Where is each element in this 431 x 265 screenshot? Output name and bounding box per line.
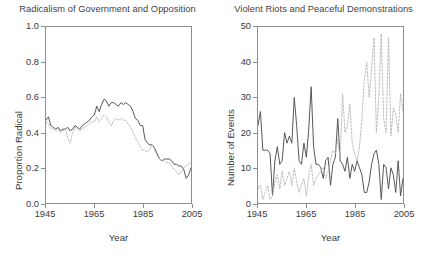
y-tick-mark: [253, 26, 257, 27]
y-tick-label: 30: [216, 92, 251, 102]
y-tick-label: 0.0: [0, 199, 39, 209]
y-tick-mark: [253, 62, 257, 63]
series-line: [258, 34, 403, 199]
y-tick-mark: [41, 26, 45, 27]
y-tick-label: 1.0: [0, 21, 39, 31]
plot-lines-right: [258, 27, 403, 203]
x-tick-label: 1945: [35, 209, 56, 219]
series-line: [46, 115, 191, 175]
x-tick-label: 2005: [182, 209, 203, 219]
y-tick-mark: [41, 97, 45, 98]
x-tick-mark: [94, 204, 95, 208]
x-tick-mark: [404, 204, 405, 208]
plot-lines-left: [46, 27, 191, 203]
x-tick-mark: [257, 204, 258, 208]
plot-area-left: [45, 26, 192, 204]
y-tick-label: 50: [216, 21, 251, 31]
x-tick-label: 1985: [133, 209, 154, 219]
x-tick-mark: [355, 204, 356, 208]
y-tick-mark: [41, 133, 45, 134]
panel-title-left: Radicalism of Government and Opposition: [0, 4, 215, 14]
y-tick-mark: [253, 97, 257, 98]
x-tick-mark: [306, 204, 307, 208]
series-line: [258, 87, 403, 200]
panel-title-right: Violent Riots and Peaceful Demonstration…: [216, 4, 431, 14]
x-tick-label: 1985: [345, 209, 366, 219]
x-tick-label: 1965: [296, 209, 317, 219]
x-tick-mark: [45, 204, 46, 208]
y-axis-title-left: Proportion Radical: [13, 111, 24, 190]
x-tick-mark: [192, 204, 193, 208]
y-tick-label: 0.8: [0, 57, 39, 67]
y-tick-mark: [253, 168, 257, 169]
x-tick-label: 1965: [84, 209, 105, 219]
series-line: [46, 99, 191, 178]
x-tick-mark: [143, 204, 144, 208]
two-panel-figure: Radicalism of Government and Opposition …: [0, 0, 431, 265]
plot-area-right: [257, 26, 404, 204]
x-axis-title-left: Year: [45, 232, 192, 243]
y-tick-label: 40: [216, 57, 251, 67]
x-axis-title-right: Year: [257, 232, 404, 243]
y-tick-mark: [41, 168, 45, 169]
y-tick-label: 0: [216, 199, 251, 209]
x-tick-label: 1945: [247, 209, 268, 219]
panel-radicalism: Radicalism of Government and Opposition …: [0, 0, 215, 265]
panel-events: Violent Riots and Peaceful Demonstration…: [216, 0, 431, 265]
y-tick-mark: [41, 62, 45, 63]
x-tick-label: 2005: [394, 209, 415, 219]
y-axis-title-right: Number of Events: [225, 109, 236, 186]
y-tick-label: 0.6: [0, 92, 39, 102]
y-tick-mark: [253, 133, 257, 134]
